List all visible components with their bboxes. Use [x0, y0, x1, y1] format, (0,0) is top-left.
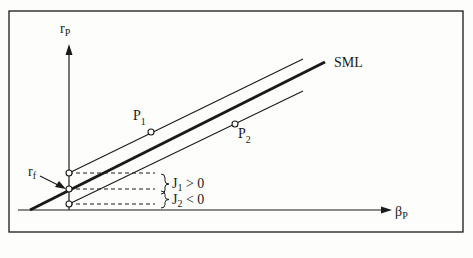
p1-marker — [148, 129, 154, 135]
y-axis-arrow-icon — [66, 44, 73, 55]
rf-marker — [66, 186, 72, 192]
j2-label: J2 < 0 — [172, 192, 204, 209]
rf-pointer-arrow-icon — [55, 181, 66, 189]
x-axis-arrow-icon — [381, 207, 392, 214]
p1-label: P1 — [133, 108, 146, 127]
sml-diagram: rP βP SML rf P1 P2 J1 > 0 J2 < 0 — [0, 0, 473, 258]
p2-label: P2 — [238, 126, 251, 145]
sml-label: SML — [334, 55, 363, 70]
y-axis-label: rP — [60, 21, 71, 38]
intercept-lower-marker — [66, 201, 72, 207]
upper-parallel-line — [69, 59, 303, 173]
intercept-upper-marker — [66, 170, 72, 176]
j1-label: J1 > 0 — [172, 176, 204, 193]
rf-label: rf — [28, 164, 37, 181]
x-axis-label: βP — [395, 204, 408, 221]
